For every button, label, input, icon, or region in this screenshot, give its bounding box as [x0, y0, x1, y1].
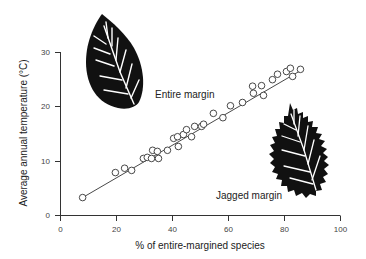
svg-text:0: 0: [46, 211, 51, 220]
y-axis: [55, 52, 61, 216]
data-point: [274, 71, 281, 78]
svg-text:60: 60: [224, 225, 233, 234]
data-point: [258, 82, 265, 89]
data-point: [250, 90, 257, 97]
x-tick-labels: 0 20 40 60 80 100: [58, 225, 347, 234]
svg-text:30: 30: [41, 48, 50, 57]
svg-text:20: 20: [112, 225, 121, 234]
svg-text:20: 20: [41, 102, 50, 111]
y-tick-labels: 30 20 10 0: [41, 48, 50, 220]
data-point: [191, 123, 198, 130]
data-point: [210, 110, 217, 117]
data-point: [148, 155, 155, 162]
data-point: [188, 133, 195, 140]
svg-text:100: 100: [334, 225, 348, 234]
data-point: [260, 92, 267, 99]
data-point: [200, 121, 207, 128]
data-point: [227, 102, 234, 109]
data-point: [220, 114, 227, 121]
data-point: [175, 143, 182, 150]
smooth-leaf-icon: [86, 14, 143, 109]
data-point: [249, 83, 256, 90]
data-point: [239, 99, 246, 106]
data-point: [154, 148, 161, 155]
data-point: [297, 66, 304, 73]
data-point: [287, 65, 294, 72]
data-point: [289, 73, 296, 80]
svg-text:40: 40: [168, 225, 177, 234]
x-axis-label: % of entire-margined species: [135, 240, 265, 251]
scatter-chart: 30 20 10 0 0 20 40 60 80 100 % of entire…: [0, 0, 366, 259]
y-axis-label: Average annual temperature (°C): [18, 59, 29, 206]
data-point: [164, 147, 171, 154]
data-point: [79, 194, 86, 201]
data-point: [128, 167, 135, 174]
data-point: [121, 165, 128, 172]
jagged-margin-label: Jagged margin: [216, 190, 282, 201]
svg-text:0: 0: [58, 225, 63, 234]
data-point: [155, 155, 162, 162]
svg-text:10: 10: [41, 157, 50, 166]
data-point: [112, 169, 119, 176]
data-point: [183, 126, 190, 133]
data-point: [269, 76, 276, 83]
serrated-leaf-icon: [269, 103, 329, 198]
x-axis: [60, 216, 341, 222]
svg-text:80: 80: [280, 225, 289, 234]
entire-margin-label: Entire margin: [155, 89, 214, 100]
